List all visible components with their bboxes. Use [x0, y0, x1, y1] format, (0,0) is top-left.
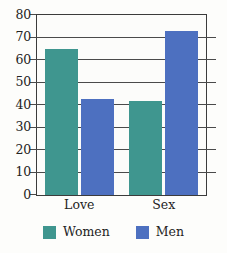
legend-swatch-icon — [136, 226, 149, 239]
y-tick-mark-right — [207, 37, 216, 38]
bar-women-love — [45, 49, 78, 195]
legend-label: Men — [156, 226, 184, 239]
legend-item-men: Men — [136, 226, 184, 239]
legend-label: Women — [63, 226, 110, 239]
y-tick-mark-right — [207, 104, 216, 105]
y-axis-tick-label: 80 — [5, 9, 31, 22]
bar-men-sex — [165, 31, 198, 195]
y-axis-tick-label: 60 — [5, 54, 31, 67]
y-tick-mark-right — [207, 82, 216, 83]
y-tick-mark-right — [207, 127, 216, 128]
y-axis-tick-label: 20 — [5, 144, 31, 157]
y-axis-tick-label: 70 — [5, 31, 31, 44]
y-axis-tick-label: 0 — [5, 189, 31, 202]
bars-layer — [37, 15, 206, 195]
y-axis-tick-label: 10 — [5, 166, 31, 179]
bar-women-sex — [129, 101, 162, 196]
y-tick-mark-right — [207, 59, 216, 60]
legend-swatch-icon — [43, 226, 56, 239]
x-axis-category-label: Love — [49, 199, 109, 212]
y-axis-tick-label: 30 — [5, 121, 31, 134]
bar-chart: 01020304050607080 LoveSex WomenMen — [0, 0, 227, 253]
y-axis-tick-label: 40 — [5, 99, 31, 112]
y-axis-tick-label: 50 — [5, 76, 31, 89]
chart-legend: WomenMen — [0, 226, 227, 239]
y-tick-mark-right — [207, 149, 216, 150]
bar-men-love — [81, 99, 114, 195]
legend-item-women: Women — [43, 226, 110, 239]
x-axis-category-label: Sex — [134, 199, 194, 212]
y-tick-mark-right — [207, 172, 216, 173]
